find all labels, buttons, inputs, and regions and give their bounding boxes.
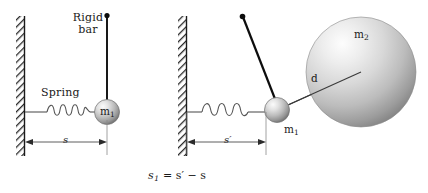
- mass-m1-subscript-left: 1: [110, 110, 115, 119]
- mass-m1-label-left: m1: [100, 106, 115, 118]
- mass-m1-symbol-left: m: [100, 105, 110, 117]
- mass-m1-label-right: m1: [284, 124, 299, 136]
- mass-m2-symbol: m: [354, 28, 364, 40]
- mass-m1-right: [265, 98, 290, 123]
- rigid-bar-label-line2: bar: [78, 23, 97, 36]
- equation-s1: s1 = s′ − s: [148, 170, 206, 182]
- spring-left: [25, 105, 95, 116]
- spring-right: [187, 104, 266, 116]
- wall-left: [16, 16, 25, 156]
- mass-m2-label: m2: [354, 29, 369, 41]
- rigid-bar-label: Rigid bar: [68, 12, 108, 37]
- distance-d-label: d: [311, 73, 318, 85]
- spring-label: Spring: [41, 87, 80, 99]
- rigid-bar-right: [240, 14, 277, 104]
- wall-right: [178, 16, 187, 156]
- physics-diagram: Rigid bar Spring m1 s m1 m2 d s′ s1 = s′…: [0, 0, 428, 193]
- equation-remainder: = s′ − s: [160, 169, 206, 182]
- mass-m2-subscript: 2: [364, 33, 369, 42]
- dimension-s-prime-label: s′: [224, 134, 231, 145]
- rigid-bar-label-line1: Rigid: [73, 11, 103, 24]
- dimension-s-label: s: [63, 134, 68, 145]
- mass-m1-symbol-right: m: [284, 123, 294, 135]
- mass-m1-subscript-right: 1: [294, 128, 299, 137]
- equation-s-subscript: 1: [154, 174, 159, 183]
